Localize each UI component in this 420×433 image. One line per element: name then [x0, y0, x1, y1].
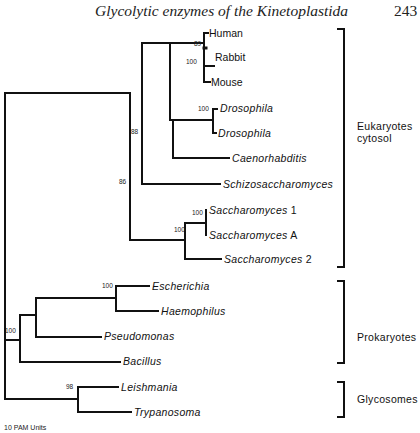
- taxon-suffix: 1: [288, 204, 297, 216]
- taxon-name: Human: [209, 27, 243, 39]
- taxon-name: Pseudomonas: [104, 330, 174, 342]
- bootstrap-value: 98: [66, 383, 73, 390]
- taxon-label: Saccharomyces 1: [209, 204, 297, 216]
- taxon-label: Rabbit: [215, 51, 245, 63]
- bootstrap-value: 100: [5, 327, 16, 334]
- taxon-name: Saccharomyces: [209, 204, 288, 216]
- group-label-line2: cytosol: [357, 132, 413, 144]
- taxon-label: Escherichia: [152, 280, 210, 292]
- taxon-label: Bacillus: [123, 355, 162, 367]
- group-label: Glycosomes: [357, 393, 418, 405]
- taxon-label: Saccharomyces A: [209, 229, 298, 241]
- taxon-label: Human: [209, 27, 243, 39]
- taxon-name: Haemophilus: [161, 305, 226, 317]
- group-label: Prokaryotes: [357, 331, 416, 343]
- taxon-name: Leishmania: [121, 381, 178, 393]
- group-label-line1: Eukaryotes: [357, 120, 413, 132]
- bootstrap-value: 100: [102, 282, 113, 289]
- taxon-name: Trypanosoma: [134, 406, 201, 418]
- taxon-name: Mouse: [211, 76, 243, 88]
- bracket-prokaryotes: [337, 281, 344, 363]
- taxon-suffix: 2: [303, 253, 312, 265]
- taxon-name: Saccharomyces: [224, 253, 303, 265]
- taxon-label: Mouse: [211, 76, 243, 88]
- taxon-label: Caenorhabditis: [232, 152, 307, 164]
- bootstrap-value: 88: [131, 128, 138, 135]
- group-label: Eukaryotescytosol: [357, 120, 413, 144]
- group-label-line1: Glycosomes: [357, 393, 418, 405]
- taxon-label: Drosophila: [218, 127, 271, 139]
- bootstrap-value: 100: [192, 209, 203, 216]
- bootstrap-value: 100: [186, 58, 197, 65]
- bootstrap-value: 100: [198, 105, 209, 112]
- bracket-glycosomes: [337, 382, 344, 417]
- phylogenetic-tree: [0, 0, 420, 433]
- taxon-label: Saccharomyces 2: [224, 253, 312, 265]
- taxon-name: Saccharomyces: [209, 229, 288, 241]
- scale-label: 10 PAM Units: [4, 424, 46, 431]
- taxon-label: Leishmania: [121, 381, 178, 393]
- taxon-name: Schizosaccharomyces: [223, 178, 333, 190]
- bracket-eukaryotes: [337, 29, 344, 267]
- taxon-name: Drosophila: [218, 127, 271, 139]
- taxon-label: Trypanosoma: [134, 406, 201, 418]
- group-label-line1: Prokaryotes: [357, 331, 416, 343]
- group-brackets: [337, 29, 344, 417]
- bootstrap-value: 89: [194, 40, 201, 47]
- taxon-name: Caenorhabditis: [232, 152, 307, 164]
- taxon-suffix: A: [288, 229, 298, 241]
- taxon-name: Rabbit: [215, 51, 245, 63]
- taxon-label: Schizosaccharomyces: [223, 178, 333, 190]
- bootstrap-value: 86: [119, 178, 126, 185]
- taxon-name: Escherichia: [152, 280, 210, 292]
- taxon-name: Bacillus: [123, 355, 162, 367]
- bootstrap-value: 100: [174, 226, 185, 233]
- taxon-label: Drosophila: [220, 102, 273, 114]
- taxon-label: Pseudomonas: [104, 330, 174, 342]
- taxon-name: Drosophila: [220, 102, 273, 114]
- taxon-label: Haemophilus: [161, 305, 226, 317]
